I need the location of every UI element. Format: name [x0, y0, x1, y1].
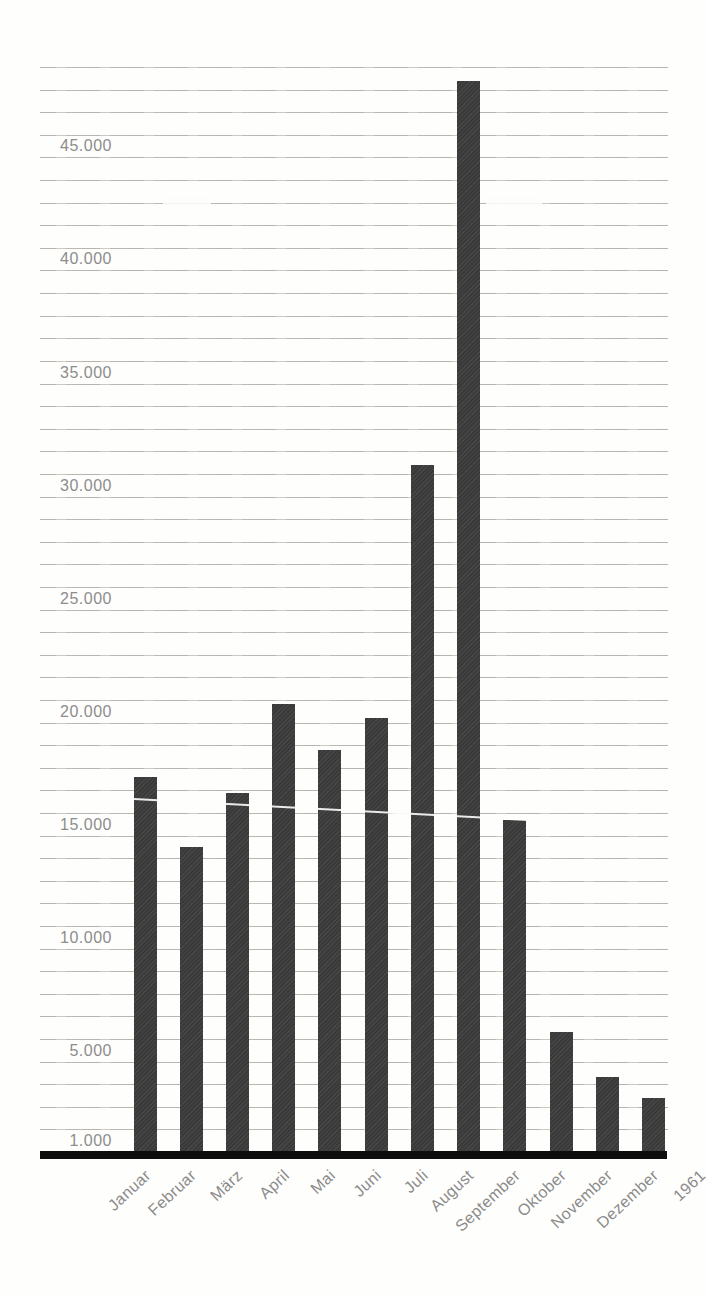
y-axis-tick-label: 35.000	[40, 364, 112, 382]
gridline	[40, 655, 668, 656]
gridline	[40, 67, 668, 68]
x-axis-label-märz: März	[207, 1166, 246, 1205]
gridline	[40, 768, 668, 769]
y-axis-tick-label: 30.000	[40, 477, 112, 495]
bar-dezember	[642, 1098, 665, 1154]
gridline	[40, 270, 668, 271]
year-label: 1961	[669, 1166, 708, 1205]
gridline	[40, 564, 668, 565]
y-axis-tick-label: 20.000	[40, 703, 112, 721]
gridline	[40, 700, 668, 701]
y-axis-tick-label: 40.000	[40, 250, 112, 268]
scanned-bar-chart-page: 1.0005.00010.00015.00020.00025.00030.000…	[0, 0, 708, 1298]
gridline	[40, 338, 668, 339]
y-axis-tick-label: 10.000	[40, 929, 112, 947]
y-axis-tick-label: 25.000	[40, 590, 112, 608]
x-axis-baseline	[40, 1151, 667, 1159]
y-axis-tick-label: 5.000	[40, 1042, 112, 1060]
gridline	[40, 90, 668, 91]
gridline	[40, 745, 668, 746]
scan-artifact	[486, 196, 542, 204]
gridline	[40, 429, 668, 430]
bar-september	[503, 820, 526, 1154]
gridline	[40, 451, 668, 452]
gridline	[40, 610, 668, 611]
bar-oktober	[550, 1032, 573, 1154]
y-axis-tick-label: 15.000	[40, 816, 112, 834]
gridline	[40, 225, 668, 226]
y-axis-tick-label: 1.000	[40, 1132, 112, 1150]
bar-januar	[134, 777, 157, 1154]
x-axis-label-februar: Februar	[145, 1166, 200, 1219]
gridline	[40, 474, 668, 475]
bar-april	[272, 704, 295, 1154]
x-axis-label-juli: Juli	[401, 1166, 432, 1197]
gridline	[40, 384, 668, 385]
gridline	[40, 112, 668, 113]
gridline	[40, 361, 668, 362]
scan-artifact	[163, 196, 211, 204]
x-axis-label-mai: Mai	[307, 1166, 339, 1198]
gridline	[40, 497, 668, 498]
bar-juli	[411, 465, 434, 1154]
gridline	[40, 587, 668, 588]
gridline	[40, 203, 668, 204]
gridline	[40, 632, 668, 633]
bar-juni	[365, 718, 388, 1154]
bar-märz	[226, 793, 249, 1154]
bar-november	[596, 1077, 619, 1154]
y-axis-tick-label: 45.000	[40, 137, 112, 155]
gridline	[40, 677, 668, 678]
gridline	[40, 316, 668, 317]
bar-august	[457, 81, 480, 1154]
x-axis-label-april: April	[256, 1166, 293, 1202]
gridline	[40, 135, 668, 136]
gridline	[40, 406, 668, 407]
gridline	[40, 157, 668, 158]
gridline	[40, 293, 668, 294]
gridline	[40, 723, 668, 724]
gridline	[40, 519, 668, 520]
gridline	[40, 542, 668, 543]
gridline	[40, 248, 668, 249]
gridline	[40, 180, 668, 181]
bar-februar	[180, 847, 203, 1154]
x-axis-label-juni: Juni	[350, 1166, 385, 1200]
